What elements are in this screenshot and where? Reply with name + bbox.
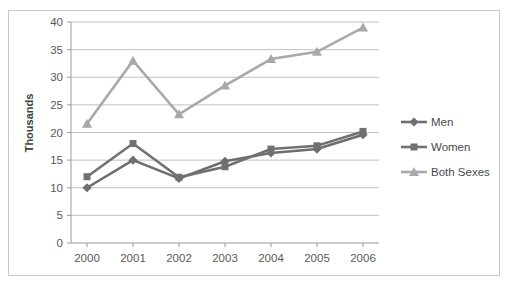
x-axis-tick-label: 2000 xyxy=(74,252,100,264)
square-marker xyxy=(314,142,321,149)
x-axis-tick-label: 2002 xyxy=(166,252,192,264)
legend-label: Women xyxy=(431,141,470,153)
square-marker xyxy=(411,144,418,151)
square-marker xyxy=(176,174,183,181)
y-axis-tick-label: 30 xyxy=(50,71,63,83)
y-axis-title: Thousands xyxy=(23,94,35,153)
square-marker xyxy=(84,173,91,180)
x-axis-tick-label: 2001 xyxy=(120,252,146,264)
chart-background xyxy=(9,11,499,275)
square-marker xyxy=(268,146,275,153)
x-axis-tick-label: 2006 xyxy=(350,252,376,264)
line-chart: 0510152025303540 20002001200220032004200… xyxy=(9,11,499,275)
y-axis-tick-label: 20 xyxy=(50,127,63,139)
x-axis-tick-label: 2005 xyxy=(304,252,330,264)
square-marker xyxy=(222,163,229,170)
square-marker xyxy=(130,140,137,147)
x-axis-tick-label: 2003 xyxy=(212,252,238,264)
y-axis-tick-label: 0 xyxy=(57,237,63,249)
y-axis-tick-label: 25 xyxy=(50,99,63,111)
legend-label: Both Sexes xyxy=(431,166,490,178)
legend-label: Men xyxy=(431,116,453,128)
y-axis-tick-label: 10 xyxy=(50,182,63,194)
y-axis-tick-label: 5 xyxy=(57,209,63,221)
x-axis-tick-label: 2004 xyxy=(258,252,284,264)
y-axis-tick-label: 35 xyxy=(50,44,63,56)
y-axis-tick-label: 15 xyxy=(50,154,63,166)
y-axis-tick-label: 40 xyxy=(50,16,63,28)
square-marker xyxy=(360,128,367,135)
chart-container: 0510152025303540 20002001200220032004200… xyxy=(8,10,500,276)
